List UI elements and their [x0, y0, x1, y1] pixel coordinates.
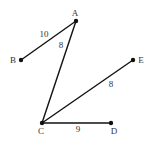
length-ac: 8: [59, 40, 64, 50]
points: [19, 19, 135, 125]
point-a: [74, 19, 78, 23]
point-c: [40, 121, 44, 125]
geometry-diagram: A B C D E 10 8 8 9: [0, 0, 148, 143]
segment-ba: [21, 21, 76, 60]
segments: [21, 21, 133, 123]
point-d: [109, 121, 113, 125]
segment-ce: [42, 60, 133, 123]
label-b: B: [10, 55, 16, 65]
point-labels: A B C D E: [10, 8, 144, 136]
label-e: E: [138, 55, 144, 65]
label-a: A: [72, 8, 79, 18]
length-cd: 9: [76, 124, 81, 134]
length-ce: 8: [109, 79, 114, 89]
label-c: C: [38, 126, 44, 136]
point-b: [19, 58, 23, 62]
point-e: [131, 58, 135, 62]
length-ba: 10: [40, 29, 50, 39]
label-d: D: [111, 126, 118, 136]
